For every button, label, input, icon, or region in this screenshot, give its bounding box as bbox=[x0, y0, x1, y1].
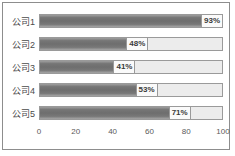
bar-value-label: 53% bbox=[136, 83, 158, 97]
bar-row: 公司453% bbox=[39, 82, 223, 98]
bar-track bbox=[39, 106, 223, 120]
bar-value-label: 41% bbox=[113, 60, 135, 74]
x-axis-tick-label: 0 bbox=[37, 127, 41, 136]
x-axis-tick-label: 80 bbox=[182, 127, 191, 136]
bar-value-label: 48% bbox=[126, 37, 148, 51]
x-axis-tick-label: 40 bbox=[108, 127, 117, 136]
category-label: 公司1 bbox=[12, 14, 35, 27]
category-label: 公司4 bbox=[12, 84, 35, 97]
bar-fill bbox=[40, 107, 169, 119]
category-label: 公司3 bbox=[12, 61, 35, 74]
bar-track bbox=[39, 14, 223, 28]
bar-row: 公司248% bbox=[39, 36, 223, 52]
bar-row: 公司341% bbox=[39, 59, 223, 75]
bar-fill bbox=[40, 84, 136, 96]
bar-fill bbox=[40, 38, 127, 50]
x-axis-tick-label: 20 bbox=[71, 127, 80, 136]
bar-fill bbox=[40, 15, 209, 27]
category-label: 公司2 bbox=[12, 37, 35, 50]
x-axis: 020406080100 bbox=[39, 127, 223, 141]
plot-area: 公司193%公司248%公司341%公司453%公司571% bbox=[39, 9, 223, 125]
bar-value-label: 93% bbox=[201, 14, 223, 28]
category-label: 公司5 bbox=[12, 107, 35, 120]
bar-row: 公司571% bbox=[39, 105, 223, 121]
bar-fill bbox=[40, 61, 115, 73]
chart-frame: 公司193%公司248%公司341%公司453%公司571% 020406080… bbox=[2, 2, 230, 150]
bar-value-label: 71% bbox=[169, 106, 191, 120]
bar-track bbox=[39, 83, 223, 97]
bar-row: 公司193% bbox=[39, 13, 223, 29]
x-axis-tick-label: 60 bbox=[145, 127, 154, 136]
x-axis-tick-label: 100 bbox=[216, 127, 229, 136]
